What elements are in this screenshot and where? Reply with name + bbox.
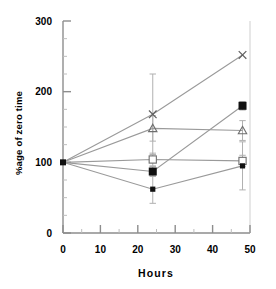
line-chart: 0100200300 01020304050 %age of zero time… [0, 0, 276, 289]
x-tick-label: 10 [95, 244, 107, 255]
y-tick-label: 200 [35, 86, 52, 97]
y-tick-label: 100 [35, 157, 52, 168]
x-axis-tick-labels: 01020304050 [60, 244, 256, 255]
y-axis-tick-labels: 0100200300 [35, 16, 52, 239]
y-tick-label: 0 [46, 228, 52, 239]
x-tick-label: 50 [244, 244, 256, 255]
marker-filled-square-small [240, 163, 245, 168]
x-axis-ticks [63, 225, 250, 233]
y-axis-label: %age of zero time [13, 91, 24, 175]
marker-open-square [149, 156, 156, 163]
marker-filled-square [239, 102, 247, 110]
x-tick-label: 30 [170, 244, 182, 255]
axes-frame [63, 21, 250, 233]
marker-origin-point [60, 159, 66, 165]
series-markers [60, 51, 247, 192]
x-tick-label: 40 [207, 244, 219, 255]
marker-filled-square [149, 168, 157, 176]
y-tick-label: 300 [35, 16, 52, 27]
marker-filled-square-small [150, 187, 155, 192]
x-axis-label: Hours [138, 267, 174, 279]
x-tick-label: 20 [132, 244, 144, 255]
chart-figure: 0100200300 01020304050 %age of zero time… [0, 0, 276, 289]
x-tick-label: 0 [60, 244, 66, 255]
y-axis-ticks [63, 21, 71, 233]
